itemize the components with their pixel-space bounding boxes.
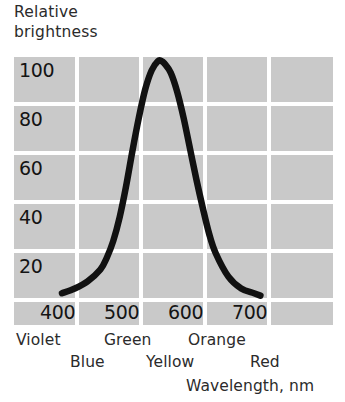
x-tick-label: 400: [40, 303, 75, 322]
color-band-label: Green: [104, 332, 151, 349]
color-band-label: Violet: [16, 332, 61, 349]
y-axis-title-line1: Relative: [14, 2, 214, 22]
y-tick-label: 20: [19, 257, 43, 276]
curve-path: [62, 60, 260, 295]
y-tick-label: 100: [19, 61, 54, 80]
color-band-label: Yellow: [146, 354, 194, 371]
brightness-curve: [14, 57, 333, 325]
chart-plot-area: [14, 57, 333, 325]
color-band-label: Red: [250, 354, 280, 371]
x-tick-label: 500: [104, 303, 139, 322]
y-axis-title: Relative brightness: [14, 2, 214, 42]
x-axis-title: Wavelength, nm: [186, 378, 314, 395]
color-band-label: Blue: [70, 354, 105, 371]
y-tick-label: 40: [19, 208, 43, 227]
y-tick-label: 60: [19, 159, 43, 178]
x-tick-label: 700: [232, 303, 267, 322]
color-band-label: Orange: [188, 332, 246, 349]
y-axis-title-line2: brightness: [14, 22, 214, 42]
y-tick-label: 80: [19, 110, 43, 129]
x-tick-label: 600: [168, 303, 203, 322]
